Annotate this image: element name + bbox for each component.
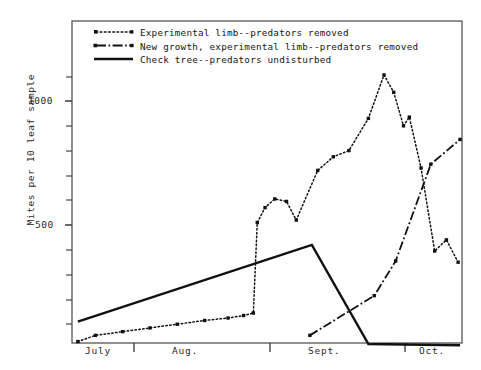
data-point-marker	[273, 197, 276, 200]
data-point-marker	[121, 330, 124, 333]
y-tick-label-1000: 1000	[28, 95, 53, 106]
x-label-july: July	[85, 345, 111, 356]
legend-label-experimental-limb: Experimental limb--predators removed	[140, 27, 349, 38]
x-label-aug: Aug.	[172, 345, 198, 356]
data-point-marker	[392, 91, 395, 94]
data-point-marker	[347, 149, 350, 152]
data-point-marker	[176, 323, 179, 326]
chart-container: Mites per 10 leaf sample 1000 500 July A…	[0, 0, 481, 370]
data-point-marker	[419, 166, 422, 169]
data-point-marker	[256, 221, 259, 224]
data-point-marker	[433, 249, 436, 252]
series-line	[78, 75, 458, 342]
y-tick-label-500: 500	[35, 219, 54, 230]
x-label-oct: Oct.	[419, 345, 445, 356]
data-point-marker	[252, 311, 255, 314]
data-point-marker	[308, 334, 311, 337]
y-axis-title: Mites per 10 leaf sample	[25, 86, 36, 226]
series-line	[310, 139, 460, 335]
data-point-marker	[203, 319, 206, 322]
plot-frame	[72, 21, 462, 343]
legend-marker-dashdot-end	[130, 44, 133, 47]
legend-samples	[94, 30, 134, 59]
data-point-marker	[429, 163, 432, 166]
data-point-marker	[332, 155, 335, 158]
series-2	[308, 138, 462, 337]
data-point-marker	[394, 259, 397, 262]
data-series-layer	[76, 73, 462, 345]
legend-marker-dotted-end	[130, 30, 133, 33]
data-point-marker	[408, 115, 411, 118]
y-axis-ticks	[65, 77, 72, 324]
legend-label-check-tree: Check tree--predators undisturbed	[140, 54, 331, 65]
data-point-marker	[316, 169, 319, 172]
data-point-marker	[373, 294, 376, 297]
data-point-marker	[445, 238, 448, 241]
x-label-sept: Sept.	[308, 345, 341, 356]
data-point-marker	[76, 340, 79, 343]
data-point-marker	[295, 218, 298, 221]
data-point-marker	[263, 206, 266, 209]
legend-marker-dashdot	[94, 44, 98, 48]
data-point-marker	[148, 326, 151, 329]
data-point-marker	[402, 124, 405, 127]
data-point-marker	[285, 200, 288, 203]
data-point-marker	[94, 334, 97, 337]
legend-label-new-growth: New growth, experimental limb--predators…	[140, 41, 418, 52]
legend-marker-dotted	[94, 30, 98, 34]
data-point-marker	[458, 138, 461, 141]
data-point-marker	[382, 73, 385, 76]
data-point-marker	[226, 316, 229, 319]
data-point-marker	[367, 117, 370, 120]
data-point-marker	[242, 314, 245, 317]
data-point-marker	[456, 261, 459, 264]
